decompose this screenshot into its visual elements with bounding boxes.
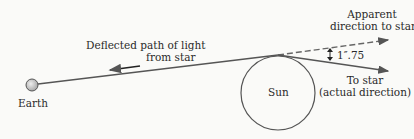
actual-line1: To star [316, 74, 414, 86]
apparent-line1: Apparent [330, 8, 414, 20]
light-direction-arrow [110, 66, 140, 70]
deflected-path-line2: from star [86, 51, 206, 63]
apparent-line2: direction to star [330, 20, 414, 32]
apparent-direction-line [278, 40, 388, 55]
earth-label: Earth [18, 97, 48, 109]
angle-label: 1″.75 [337, 49, 364, 61]
deflected-path-label: Deflected path of light from star [86, 39, 206, 63]
light-deflection-diagram: Deflected path of light from star Appare… [0, 0, 414, 139]
deflected-path-line1: Deflected path of light [86, 39, 206, 51]
earth-circle [26, 79, 38, 91]
actual-line2: (actual direction) [316, 86, 414, 98]
sun-label: Sun [268, 86, 289, 98]
actual-direction-line [278, 55, 388, 71]
apparent-direction-label: Apparent direction to star [330, 8, 414, 32]
actual-direction-label: To star (actual direction) [316, 74, 414, 98]
